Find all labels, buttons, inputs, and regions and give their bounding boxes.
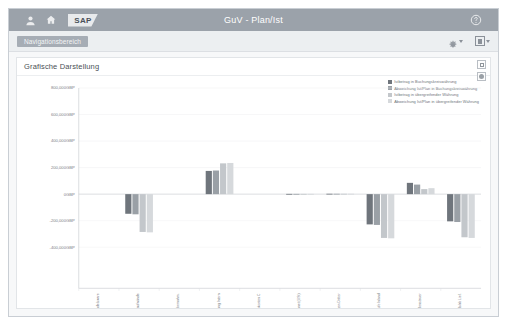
chart-bar[interactable] [125,194,131,214]
chart-bar[interactable] [421,189,427,194]
chart-bar[interactable] [326,194,332,195]
chart-bar[interactable] [286,194,292,195]
sap-logo: SAP [68,14,98,27]
chart-bar[interactable] [454,194,460,222]
x-axis-category-label: Handelsware [96,293,100,308]
x-axis-category-label: Bezahlt 1 Ste. Übernahm. [176,293,180,308]
chart-bar[interactable] [213,171,219,195]
chart-bar[interactable] [447,194,453,221]
chart-bar[interactable] [341,194,347,195]
x-axis-category-label: Nicht Saldokonten C [257,293,261,308]
x-axis-category-label: Verkäufe Inland [377,293,381,308]
sub-header-actions [448,36,490,46]
chart-bar[interactable] [293,194,299,195]
x-axis-category-label: Verrechnet (USt) [297,293,301,308]
chart-bar[interactable] [407,183,413,194]
shell-bar-left-group: SAP [9,14,98,27]
y-axis-tick-label: -400,000GBP [50,245,76,250]
application-window: SAP GuV - Plan/Ist Navigationsbereich [8,8,499,317]
chart-bar[interactable] [348,194,354,195]
chart-bar[interactable] [428,188,434,194]
y-axis-tick-label: 0GBP [64,192,76,197]
y-axis-tick-label: 800,000GBP [51,86,75,91]
bar-chart[interactable]: 800,000GBP600,000GBP400,000GBP200,000GBP… [17,76,490,308]
help-icon[interactable] [470,14,482,26]
x-axis-category-label: Forderung Intern [216,293,220,308]
navigation-area-tab[interactable]: Navigationsbereich [17,36,88,47]
chart-bar[interactable] [381,194,387,238]
chart-bar[interactable] [374,194,380,225]
y-axis-tick-label: -200,000GBP [50,218,76,223]
y-axis-tick-label: 200,000GBP [51,165,75,170]
chart-bar[interactable] [388,194,394,238]
chart-panel: Grafische Darstellung Istbetrag in Buchu… [16,57,491,309]
chart-bar[interactable] [334,194,340,195]
chart-plot-area[interactable]: 800,000GBP600,000GBP400,000GBP200,000GBP… [17,76,490,308]
chevron-down-icon [486,40,490,43]
chart-bar[interactable] [414,185,420,195]
fullscreen-icon[interactable] [477,60,486,69]
chevron-down-icon [459,40,463,43]
x-axis-category-label: VR Innerhalb/ab Lief. [458,293,462,308]
chart-bar[interactable] [140,194,146,232]
home-icon[interactable] [45,15,56,26]
chart-bar[interactable] [206,171,212,194]
chart-bar[interactable] [147,194,153,232]
shell-bar-right-group [470,14,498,26]
chart-bar[interactable] [469,194,475,238]
chart-bar[interactable] [227,163,233,194]
content-area: Grafische Darstellung Istbetrag in Buchu… [9,52,498,316]
y-axis-tick-label: 400,000GBP [51,139,75,144]
x-axis-category-label: Zinsaufwendungen Dritter [337,293,341,308]
user-icon[interactable] [25,15,36,26]
x-axis-category-label: Quellensteuer [417,293,421,308]
y-axis-tick-label: 600,000GBP [51,112,75,117]
view-selector-button[interactable] [475,36,490,46]
gear-icon [448,36,458,46]
panel-header: Grafische Darstellung [17,58,490,76]
settings-menu-button[interactable] [448,36,463,46]
chart-bar[interactable] [301,194,307,195]
shell-bar: SAP GuV - Plan/Ist [9,9,498,31]
chart-bar[interactable] [461,194,467,237]
sub-header-bar: Navigationsbereich [9,31,498,52]
chart-bar[interactable] [220,163,226,194]
chart-bar[interactable] [367,194,373,224]
chart-bar[interactable] [132,194,138,214]
x-axis-category-label: Bestand Zwischenaufwände [136,293,140,308]
panel-title: Grafische Darstellung [24,62,99,71]
chart-bar[interactable] [308,194,314,195]
table-view-icon [475,36,485,46]
